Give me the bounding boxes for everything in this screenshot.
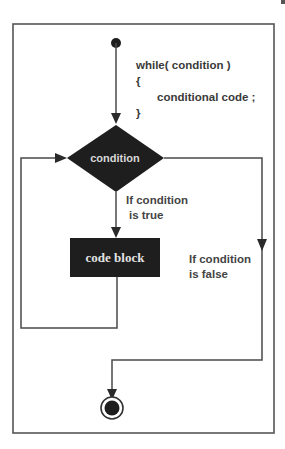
code-line-1: while( condition ) <box>135 59 231 71</box>
edge-condition-to-code-block <box>111 192 121 238</box>
code-line-3: conditional code ; <box>157 91 255 103</box>
code-line-2: { <box>136 75 141 87</box>
true-label-line-2: is true <box>129 209 164 221</box>
code-line-4: } <box>136 107 141 119</box>
code-snippet: while( condition ) { conditional code ; … <box>135 59 255 119</box>
false-branch-label: If condition is false <box>189 253 251 280</box>
false-label-line-2: is false <box>189 268 228 280</box>
diagram-frame <box>13 24 274 433</box>
code-block-node: code block <box>70 238 160 277</box>
condition-label: condition <box>90 152 140 164</box>
scan-artifact <box>281 0 285 4</box>
while-loop-flowchart: while( condition ) { conditional code ; … <box>0 0 285 449</box>
code-block-label: code block <box>86 250 146 265</box>
true-label-line-1: If condition <box>126 194 188 206</box>
condition-node: condition <box>67 125 164 192</box>
edge-start-to-condition <box>111 43 121 124</box>
end-node-icon <box>101 397 123 419</box>
true-branch-label: If condition is true <box>126 194 188 221</box>
false-label-line-1: If condition <box>189 253 251 265</box>
